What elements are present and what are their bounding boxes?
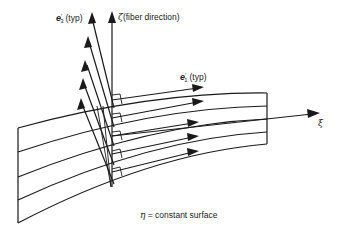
zeta-axis (108, 11, 116, 187)
xi-label: ξ (318, 118, 324, 128)
e3-prime-label: e′3(typ) (56, 13, 83, 24)
fiber-coordinate-diagram: e′3(typ) ζ(fiber direction) e′1(typ) ξ η… (0, 0, 339, 242)
e1-prime-label: e′1(typ) (180, 72, 207, 83)
zeta-label: ζ(fiber direction) (118, 12, 180, 22)
eta-caption: η = constant surface (140, 210, 218, 220)
xi-axis (112, 109, 320, 136)
